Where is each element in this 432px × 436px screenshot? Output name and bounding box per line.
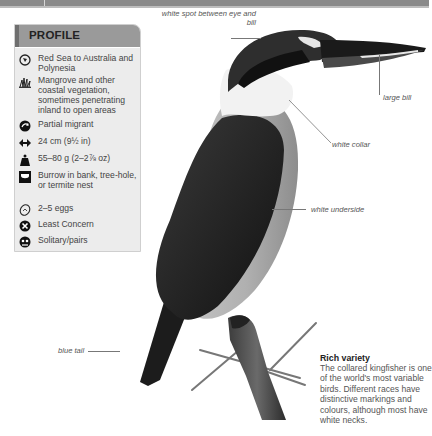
annotation-white-collar: white collar (332, 140, 370, 149)
leader-line-blue-tail (88, 351, 120, 352)
rich-variety-note: Rich variety The collared kingfisher is … (320, 353, 432, 425)
annotation-white-underside: white underside (311, 205, 364, 214)
note-body: The collared kingfisher is one of the wo… (320, 363, 432, 425)
annotation-blue-tail: blue tail (58, 346, 84, 355)
leader-line-white-underside (272, 209, 306, 210)
note-title: Rich variety (320, 353, 432, 363)
